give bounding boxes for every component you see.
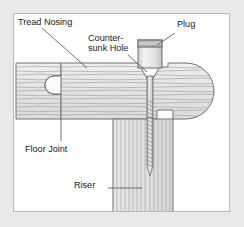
label-countersunk-hole-line1: Counter- [88, 33, 128, 43]
screw-part [147, 76, 153, 176]
stair-tread-part [45, 63, 214, 119]
label-riser: Riser [74, 180, 95, 190]
tongue-and-groove-joint [45, 76, 61, 94]
label-plug: Plug [177, 19, 195, 29]
label-countersunk-hole-line2: sunk Hole [88, 43, 128, 53]
leader-tread-nosing [42, 28, 87, 68]
screw-shank [147, 76, 153, 118]
label-countersunk-hole: Counter- sunk Hole [88, 33, 128, 54]
diagram-stage: Tread Nosing Counter- sunk Hole Plug Flo… [0, 0, 244, 227]
diagram-panel: Tread Nosing Counter- sunk Hole Plug Flo… [13, 13, 230, 212]
leader-plug [157, 33, 175, 45]
label-floor-joint: Floor Joint [25, 144, 67, 154]
label-tread-nosing: Tread Nosing [18, 17, 72, 27]
riser-part [113, 119, 173, 212]
plug-top-face [138, 40, 162, 47]
